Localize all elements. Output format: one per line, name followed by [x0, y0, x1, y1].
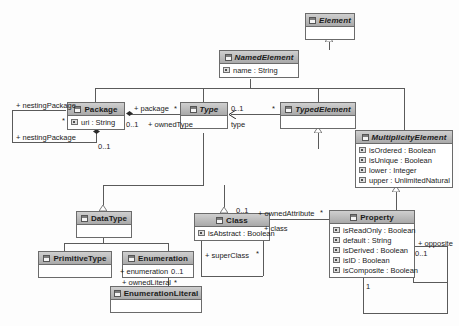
attribute-label: isOrdered : Boolean — [369, 146, 436, 155]
class-icon — [285, 106, 292, 113]
class-name-multiplicityelement: MultiplicityElement — [372, 133, 447, 142]
class-icon — [350, 214, 357, 221]
attribute-row: lower : Integer — [356, 165, 452, 175]
class-header-type: Type — [181, 103, 227, 116]
label-class-mult: 0..1 — [236, 206, 249, 215]
class-header-typedelement: TypedElement — [281, 103, 355, 116]
class-body-multiplicityelement: isOrdered : Boolean isUnique : Boolean l… — [356, 144, 452, 187]
class-icon — [114, 290, 121, 297]
attribute-label: name : String — [233, 66, 278, 75]
label-typedelement-mult: * — [272, 104, 275, 113]
label-property-mult-one: 1 — [366, 282, 370, 291]
attribute-icon — [359, 147, 366, 153]
attribute-label: isReadOnly : Boolean — [343, 226, 416, 235]
class-header-property: Property — [330, 211, 414, 224]
class-box-datatype[interactable]: DataType — [76, 211, 132, 238]
attribute-row: isAbstract : Boolean — [195, 228, 269, 238]
generalization-multiplicityelement-riser — [404, 88, 405, 130]
class-body-class: isAbstract : Boolean — [195, 227, 269, 240]
class-box-typedelement[interactable]: TypedElement — [280, 102, 356, 129]
label-nestingpackage-bottom: + nestingPackage — [16, 133, 76, 142]
uml-diagram-canvas: Element NamedElement name : String Packa… — [0, 0, 459, 326]
association-opposite-bottom — [413, 282, 447, 283]
attribute-label: upper : UnlimitedNatural — [369, 176, 450, 185]
class-name-class: Class — [226, 216, 248, 225]
label-superclass-role: + superClass — [205, 251, 249, 260]
class-body-namedelement: name : String — [220, 64, 298, 77]
class-name-typedelement: TypedElement — [295, 105, 351, 114]
class-body-enumerationliteral — [111, 300, 201, 312]
label-ownedliteral-mult: * — [174, 278, 177, 287]
type-down-stub — [203, 133, 204, 185]
class-box-property[interactable]: Property isReadOnly : Boolean default : … — [329, 210, 415, 278]
class-icon — [225, 54, 232, 61]
class-body-typedelement — [281, 116, 355, 128]
label-package-role: + package — [134, 104, 169, 113]
class-icon — [362, 134, 369, 141]
generalization-typedelement-riser — [318, 88, 319, 102]
class-box-enumerationliteral[interactable]: EnumerationLiteral — [110, 286, 202, 313]
datatype-riser — [103, 185, 104, 205]
label-opposite-role: + opposite — [418, 239, 453, 248]
attribute-label: lower : Integer — [369, 166, 417, 175]
class-icon — [43, 255, 50, 262]
property-bottom-leg-h — [363, 313, 447, 314]
label-ownedattribute-mult: * — [320, 208, 323, 217]
enumeration-riser — [168, 243, 169, 251]
class-name-element: Element — [319, 16, 351, 25]
label-nestingpackage-mult-left: * — [62, 116, 65, 125]
attribute-label: isDerived : Boolean — [343, 246, 408, 255]
attribute-icon — [198, 230, 205, 236]
class-box-multiplicityelement[interactable]: MultiplicityElement isOrdered : Boolean … — [355, 130, 453, 188]
association-nestingpackage-left — [12, 110, 13, 142]
attribute-icon — [333, 257, 340, 263]
generalization-spine — [95, 88, 405, 89]
attribute-row: name : String — [220, 65, 298, 75]
attribute-row: default : String — [330, 235, 414, 245]
class-box-namedelement[interactable]: NamedElement name : String — [219, 50, 299, 78]
attribute-row: uri : String — [68, 117, 124, 127]
label-nestingpackage-mult-bottom: 0..1 — [98, 142, 111, 151]
association-nestingpackage-bottom — [12, 142, 96, 143]
generalization-property-multiplicity — [396, 192, 397, 210]
composition-diamond-ownedtype — [126, 111, 133, 116]
property-bottom-leg-r — [447, 282, 448, 314]
attribute-row: isID : Boolean — [330, 255, 414, 265]
attribute-label: isUnique : Boolean — [369, 156, 432, 165]
label-enumeration-role: + enumeration — [120, 267, 168, 276]
class-name-namedelement: NamedElement — [235, 53, 294, 62]
class-header-package: Package — [68, 103, 124, 116]
attribute-row: isUnique : Boolean — [356, 155, 452, 165]
label-nestingpackage-left: + nestingPackage — [16, 101, 76, 110]
attribute-row: upper : UnlimitedNatural — [356, 175, 452, 185]
label-ownedattribute-role: + ownedAttribute — [258, 209, 315, 218]
generalization-package-riser — [95, 88, 96, 102]
attribute-icon — [333, 247, 340, 253]
primitivetype-riser — [64, 243, 65, 251]
attribute-row: isComposite : Boolean — [330, 265, 414, 275]
attribute-row: isOrdered : Boolean — [356, 145, 452, 155]
class-header-enumeration: Enumeration — [123, 252, 193, 265]
generalization-type-riser — [203, 88, 204, 102]
class-box-primitivetype[interactable]: PrimitiveType — [38, 251, 112, 278]
class-body-primitivetype — [39, 265, 111, 277]
class-body-property: isReadOnly : Boolean default : String is… — [330, 224, 414, 277]
class-icon — [128, 255, 135, 262]
class-box-element[interactable]: Element — [305, 13, 355, 40]
attribute-icon — [359, 167, 366, 173]
attribute-icon — [71, 119, 78, 125]
label-ownedliteral-role: + ownedLiteral — [122, 278, 171, 287]
class-icon — [81, 215, 88, 222]
attribute-label: isComposite : Boolean — [343, 266, 418, 275]
attribute-label: isID : Boolean — [343, 256, 390, 265]
label-opposite-mult: 0..1 — [415, 249, 428, 258]
association-opposite-right — [447, 246, 448, 282]
class-icon — [309, 17, 316, 24]
attribute-row: isReadOnly : Boolean — [330, 225, 414, 235]
label-type-mult: 0..1 — [231, 104, 244, 113]
class-name-type: Type — [200, 105, 219, 114]
class-riser — [224, 185, 225, 207]
label-package-mult: 0..1 — [126, 120, 139, 129]
typedelement-to-multiplicity-stub — [318, 133, 319, 149]
class-body-element — [306, 27, 354, 39]
